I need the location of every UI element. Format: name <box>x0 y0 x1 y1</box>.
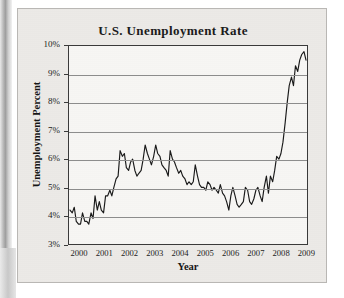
y-tick-label: 7% <box>48 125 60 135</box>
y-tick-mark <box>64 131 68 132</box>
y-tick-mark <box>64 188 68 189</box>
y-tick-label: 3% <box>48 239 60 249</box>
y-tick-label: 6% <box>48 153 60 163</box>
y-tick-mark <box>64 102 68 103</box>
x-tick-label: 2004 <box>171 248 188 258</box>
unemployment-line-series <box>69 46 307 244</box>
gridline-y-9 <box>69 75 307 76</box>
page-binding-edge-lower <box>0 248 16 298</box>
y-tick-label: 10% <box>44 39 61 49</box>
series-polyline <box>70 52 306 225</box>
y-tick-mark <box>64 74 68 75</box>
gridline-y-7 <box>69 132 307 133</box>
x-tick-label: 2003 <box>146 248 163 258</box>
gridline-y-8 <box>69 103 307 104</box>
gridline-y-6 <box>69 160 307 161</box>
x-tick-label: 2007 <box>247 248 264 258</box>
gridline-y-5 <box>69 189 307 190</box>
x-axis-title: Year <box>68 261 308 272</box>
y-tick-mark <box>64 159 68 160</box>
chart-figure-inner: U.S. Unemployment Rate Unemployment Perc… <box>18 9 326 282</box>
y-tick-label: 5% <box>48 182 60 192</box>
plot-area <box>68 45 308 245</box>
x-tick-label: 2009 <box>298 248 315 258</box>
gridline-y-4 <box>69 217 307 218</box>
y-axis-title: Unemployment Percent <box>31 75 42 195</box>
x-tick-label: 2005 <box>197 248 214 258</box>
x-tick-label: 2006 <box>222 248 239 258</box>
y-tick-label: 9% <box>48 68 60 78</box>
x-tick-label: 2008 <box>273 248 290 258</box>
y-tick-mark <box>64 216 68 217</box>
chart-title: U.S. Unemployment Rate <box>18 23 328 39</box>
y-tick-mark <box>64 45 68 46</box>
y-tick-mark <box>64 245 68 246</box>
x-tick-label: 2002 <box>121 248 138 258</box>
y-tick-label: 4% <box>48 210 60 220</box>
x-tick-label: 2000 <box>70 248 87 258</box>
chart-figure: U.S. Unemployment Rate Unemployment Perc… <box>17 8 327 283</box>
y-tick-label: 8% <box>48 96 60 106</box>
x-tick-label: 2001 <box>96 248 113 258</box>
